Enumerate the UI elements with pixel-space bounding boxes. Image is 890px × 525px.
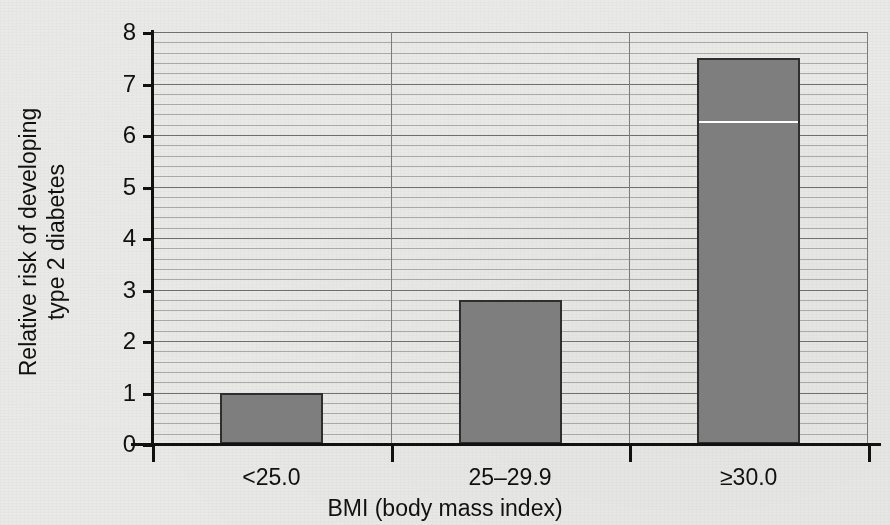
- y-axis-tick: [143, 32, 154, 35]
- plot-area: [152, 32, 868, 444]
- category-divider: [629, 32, 630, 444]
- x-axis-tick: [629, 446, 632, 462]
- bar: [459, 300, 562, 444]
- category-divider: [391, 32, 392, 444]
- y-axis-tick-label: 2: [123, 329, 136, 353]
- y-axis-line: [151, 30, 154, 446]
- major-gridline: [152, 32, 868, 33]
- y-axis-title: Relative risk of developing type 2 diabe…: [14, 22, 104, 462]
- y-axis-tick: [143, 341, 154, 344]
- x-axis-category-label: 25–29.9: [468, 466, 551, 489]
- minor-gridline: [152, 42, 868, 43]
- chart-figure: 012345678 <25.025–29.9≥30.0 BMI (body ma…: [0, 0, 890, 525]
- x-axis-title: BMI (body mass index): [327, 497, 562, 520]
- x-axis-line: [131, 443, 881, 446]
- y-axis-tick-label: 5: [123, 175, 136, 199]
- y-axis-tick-label: 4: [123, 226, 136, 250]
- y-axis-title-line-2: type 2 diabetes: [42, 22, 70, 462]
- x-axis-category-label: ≥30.0: [720, 466, 777, 489]
- y-axis-tick: [143, 135, 154, 138]
- x-axis-category-label: <25.0: [242, 466, 300, 489]
- y-axis-tick: [143, 187, 154, 190]
- x-axis-tick: [868, 446, 871, 462]
- y-axis-tick: [143, 393, 154, 396]
- y-axis-tick-label: 3: [123, 278, 136, 302]
- y-axis-tick: [143, 238, 154, 241]
- y-axis-tick-label: 8: [123, 20, 136, 44]
- x-axis-tick: [152, 446, 155, 462]
- plot-right-border: [867, 32, 868, 444]
- y-axis-tick: [143, 290, 154, 293]
- y-axis-tick-label: 1: [123, 381, 136, 405]
- y-axis-tick-label: 7: [123, 72, 136, 96]
- y-axis-tick-label: 6: [123, 123, 136, 147]
- bar: [697, 58, 800, 444]
- x-axis-tick: [391, 446, 394, 462]
- bar-white-streak: [699, 121, 798, 123]
- bar: [220, 393, 323, 445]
- minor-gridline: [152, 53, 868, 54]
- y-axis-tick: [143, 84, 154, 87]
- y-axis-title-line-1: Relative risk of developing: [14, 22, 42, 462]
